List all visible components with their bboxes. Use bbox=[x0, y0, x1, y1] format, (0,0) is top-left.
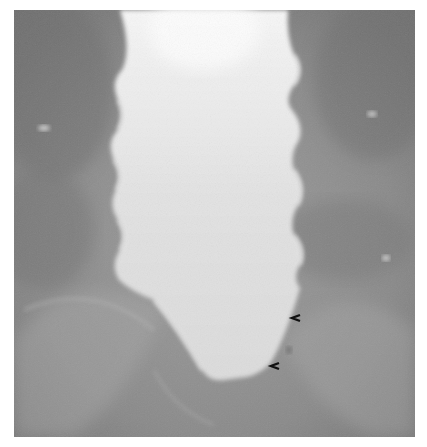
radiograph-image bbox=[14, 10, 415, 437]
radiograph-svg bbox=[14, 10, 415, 437]
